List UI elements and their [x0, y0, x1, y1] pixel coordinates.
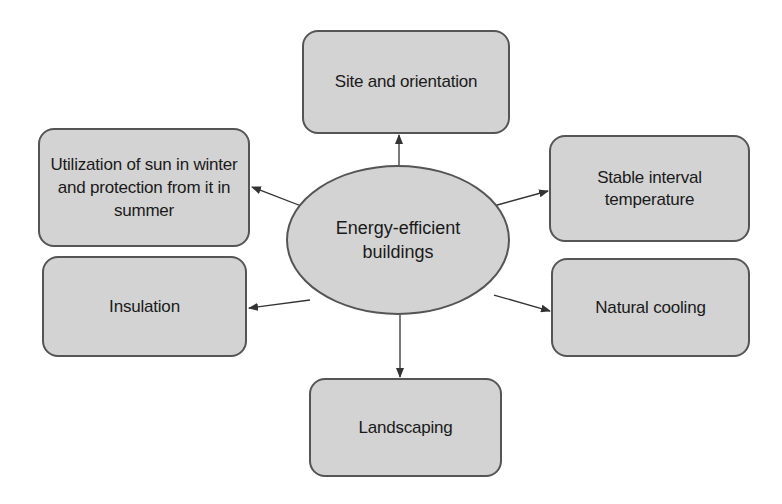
center-node-label: Energy-efficient buildings [318, 216, 478, 264]
node-label: Site and orientation [335, 71, 478, 93]
arrow-to-insulation [249, 300, 310, 308]
node-label: Utilization of sun in winter and protect… [48, 153, 240, 222]
arrow-to-stable [490, 191, 548, 207]
arrow-to-cooling [494, 295, 550, 311]
node-label: Landscaping [358, 417, 452, 439]
node-site-and-orientation: Site and orientation [302, 30, 510, 134]
node-utilization-of-sun: Utilization of sun in winter and protect… [38, 128, 250, 247]
node-stable-interval-temperature: Stable interval temperature [549, 135, 750, 242]
node-landscaping: Landscaping [309, 378, 502, 477]
node-natural-cooling: Natural cooling [551, 258, 750, 357]
center-node-energy-efficient-buildings: Energy-efficient buildings [286, 165, 510, 315]
node-label: Natural cooling [595, 297, 705, 319]
node-insulation: Insulation [42, 256, 247, 357]
node-label: Stable interval temperature [559, 167, 740, 211]
energy-efficient-buildings-diagram: Energy-efficient buildings Site and orie… [0, 0, 782, 504]
node-label: Insulation [109, 296, 180, 318]
